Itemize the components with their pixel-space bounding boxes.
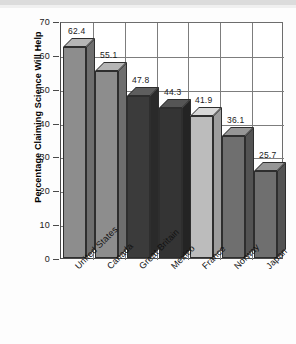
bar: 25.7	[254, 162, 277, 258]
bar-value-label: 47.8	[132, 75, 149, 85]
y-axis-tick-mark	[53, 22, 59, 23]
bar-side-face	[118, 62, 127, 258]
y-axis-tick-mark	[53, 90, 59, 91]
bar-side-face	[213, 107, 222, 258]
bar-side-face	[277, 162, 286, 258]
y-axis-tick-label: 50	[40, 85, 50, 95]
y-axis-tick-mark	[53, 259, 59, 260]
bar-value-label: 41.9	[195, 95, 212, 105]
bar-side-face	[245, 127, 254, 258]
bar-front-face	[190, 116, 213, 258]
y-axis-tick-label: 70	[40, 17, 50, 27]
y-axis-tick-label: 20	[40, 186, 50, 196]
bar-front-face	[222, 136, 245, 258]
bar-front-face	[127, 96, 150, 258]
bar: 62.4	[63, 38, 86, 258]
bar-value-label: 44.3	[164, 87, 181, 97]
bar-chart: Percentage Claiming Science Will Help 01…	[0, 0, 296, 344]
y-axis-tick-mark	[53, 56, 59, 57]
bar: 36.1	[222, 127, 245, 258]
y-axis-tick-mark	[53, 225, 59, 226]
bar-value-label: 62.4	[68, 26, 85, 36]
chart-page: Percentage Claiming Science Will Help 01…	[0, 0, 296, 344]
bar-value-label: 55.1	[100, 50, 117, 60]
bar: 41.9	[190, 107, 213, 258]
y-axis-tick-label: 0	[45, 254, 50, 264]
y-axis-tick-label: 10	[40, 220, 50, 230]
bar-front-face	[63, 47, 86, 258]
bar-side-face	[150, 87, 159, 258]
y-axis-tick-mark	[53, 124, 59, 125]
y-axis-tick-label: 60	[40, 51, 50, 61]
y-axis-tick-mark	[53, 157, 59, 158]
plot-area: 62.455.147.844.341.936.125.7	[60, 22, 283, 259]
bar-value-label: 36.1	[227, 115, 244, 125]
y-axis-tick-label: 30	[40, 152, 50, 162]
bar-value-label: 25.7	[259, 150, 276, 160]
bar: 47.8	[127, 87, 150, 258]
y-axis-tick-mark	[53, 191, 59, 192]
y-axis-tick-label: 40	[40, 119, 50, 129]
